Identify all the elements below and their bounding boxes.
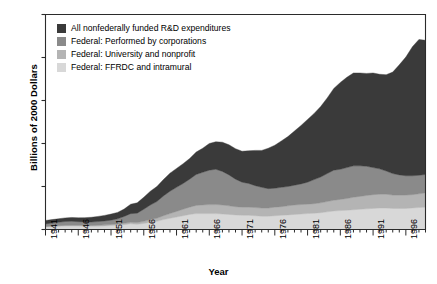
chart-container: Billions of 2000 Dollars 050100150200250… — [0, 0, 437, 284]
legend-label: Federal: FFRDC and intramural — [71, 63, 191, 72]
legend-label: Federal: University and nonprofit — [71, 50, 195, 59]
legend-item: All nonfederally funded R&D expenditures — [57, 23, 231, 35]
legend-item: Federal: FFRDC and intramural — [57, 62, 231, 74]
chart-legend: All nonfederally funded R&D expenditures… — [57, 23, 231, 75]
legend-label: Federal: Performed by corporations — [71, 37, 206, 46]
legend-swatch-icon — [57, 24, 66, 33]
legend-label: All nonfederally funded R&D expenditures — [71, 24, 231, 33]
legend-item: Federal: University and nonprofit — [57, 49, 231, 61]
x-axis-title: Year — [0, 266, 437, 277]
legend-item: Federal: Performed by corporations — [57, 36, 231, 48]
legend-swatch-icon — [57, 63, 66, 72]
legend-swatch-icon — [57, 50, 66, 59]
legend-swatch-icon — [57, 37, 66, 46]
